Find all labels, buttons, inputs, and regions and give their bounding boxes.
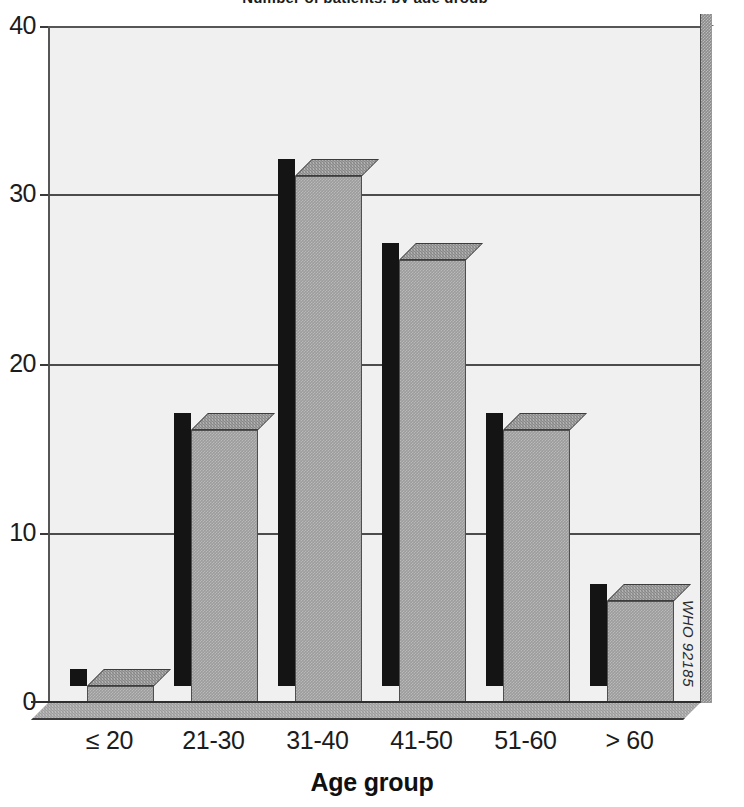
bar-top-face [503, 413, 587, 430]
who-credit-label: WHO 92185 [680, 600, 697, 720]
bar-age-21-30[interactable] [191, 430, 258, 703]
bar-top-face [607, 584, 691, 601]
chart-root: Number of patients, by age group 40 30 2… [0, 0, 744, 807]
bar-top-face [295, 159, 379, 176]
y-axis: 40 30 20 10 0 [0, 0, 36, 760]
bar-series [48, 26, 700, 703]
bar-top-face [87, 669, 171, 686]
y-tick-label-20: 20 [0, 351, 36, 376]
bar-side-face [486, 413, 503, 686]
x-tick-label-41-50: 41-50 [377, 727, 466, 755]
x-tick-label-gt60: > 60 [585, 727, 674, 755]
bar-age-41-50[interactable] [399, 260, 466, 703]
y-tick-label-10: 10 [0, 520, 36, 545]
bar-side-face [382, 243, 399, 686]
y-tick-label-40: 40 [0, 13, 36, 38]
x-tick-label-31-40: 31-40 [273, 727, 362, 755]
bar-front-face [191, 430, 258, 703]
bar-age-gt60[interactable] [607, 601, 674, 703]
bar-front-face [399, 260, 466, 703]
bar-side-face [70, 669, 87, 686]
x-tick-label-le20: ≤ 20 [65, 727, 154, 755]
bar-side-face [174, 413, 191, 686]
bar-front-face [503, 430, 570, 703]
x-axis-title: Age group [0, 768, 744, 797]
bar-age-51-60[interactable] [503, 430, 570, 703]
bar-side-face [590, 584, 607, 686]
bar-top-face [191, 413, 275, 430]
bar-age-31-40[interactable] [295, 176, 362, 703]
bar-front-face [607, 601, 674, 703]
chart-title: Number of patients, by age group [150, 0, 580, 3]
bar-top-face [399, 243, 483, 260]
x-tick-label-51-60: 51-60 [481, 727, 570, 755]
plot-3d-right-wall [700, 14, 712, 703]
y-tick-label-30: 30 [0, 181, 36, 206]
axis-floor-plane [31, 703, 700, 720]
x-axis-labels: ≤ 20 21-30 31-40 41-50 51-60 > 60 [48, 727, 712, 761]
x-tick-label-21-30: 21-30 [169, 727, 258, 755]
bar-side-face [278, 159, 295, 686]
plot-area [48, 26, 700, 703]
bar-front-face [295, 176, 362, 703]
x-axis-line [31, 701, 700, 703]
